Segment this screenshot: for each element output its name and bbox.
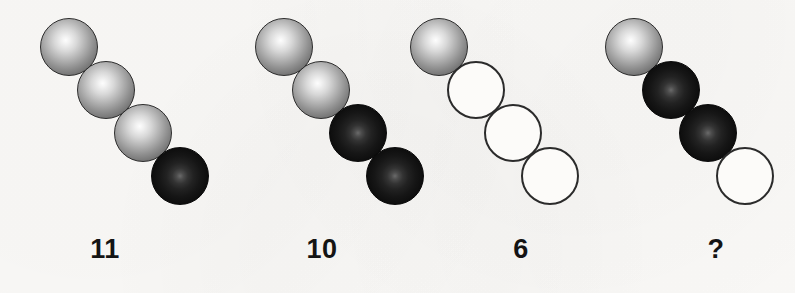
dark-filled-sphere-4 [366,147,424,205]
group-label-4: ? [708,234,725,265]
empty-outline-circle-4 [716,147,774,205]
group-label-2: 10 [306,234,337,265]
group-label-3: 6 [513,234,529,265]
dark-filled-sphere-4 [151,147,209,205]
empty-outline-circle-4 [521,147,579,205]
group-label-1: 11 [90,234,120,265]
puzzle-canvas: 11106? [0,0,795,293]
